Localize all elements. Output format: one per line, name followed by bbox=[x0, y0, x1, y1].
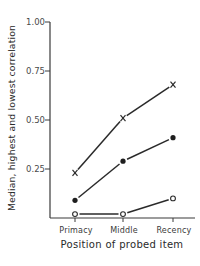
y-tick-label: 0.50 bbox=[26, 115, 45, 125]
series-median bbox=[72, 135, 175, 203]
x-marker-icon bbox=[73, 170, 78, 176]
x-marker-icon bbox=[121, 115, 126, 121]
x-marker-icon bbox=[171, 82, 176, 88]
line-chart: Median, highest and lowest correlation 0… bbox=[0, 0, 200, 266]
y-axis-title: Median, highest and lowest correlation bbox=[6, 25, 17, 211]
x-tick-label-primacy: Primacy bbox=[59, 226, 92, 235]
filled-circle-marker-icon bbox=[170, 135, 175, 140]
open-circle-marker-icon bbox=[73, 212, 78, 217]
x-axis-ticks: PrimacyMiddleRecency bbox=[59, 218, 191, 235]
series-lowest bbox=[73, 196, 176, 216]
y-axis-ticks: 0.250.500.751.00 bbox=[26, 17, 50, 174]
series-segment bbox=[78, 121, 120, 169]
x-axis-title: Position of probed item bbox=[61, 239, 184, 250]
open-circle-marker-icon bbox=[121, 212, 126, 217]
series-segment bbox=[78, 164, 119, 198]
series-segment bbox=[127, 140, 169, 160]
filled-circle-marker-icon bbox=[72, 198, 77, 203]
series-segment bbox=[127, 87, 170, 115]
x-tick-label-middle: Middle bbox=[110, 226, 138, 235]
y-tick-label: 0.75 bbox=[26, 66, 45, 76]
open-circle-marker-icon bbox=[171, 196, 176, 201]
x-tick-label-recency: Recency bbox=[156, 226, 191, 235]
filled-circle-marker-icon bbox=[120, 159, 125, 164]
y-tick-label: 1.00 bbox=[26, 17, 45, 27]
y-tick-label: 0.25 bbox=[26, 164, 45, 174]
series-group bbox=[72, 82, 175, 217]
series-segment bbox=[127, 200, 168, 213]
